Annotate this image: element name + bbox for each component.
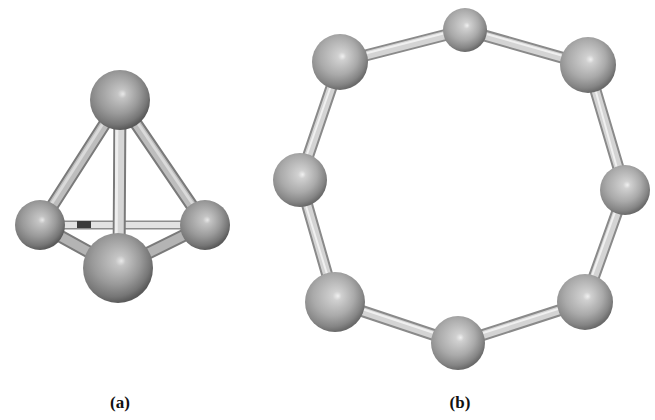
- atom-upper-left: [312, 34, 368, 90]
- atom-top: [443, 8, 487, 52]
- atom-lower-left: [305, 272, 365, 332]
- panel-label-b: (b): [430, 393, 490, 413]
- atom-bottom-front: [83, 233, 153, 303]
- panel-label-a: (a): [90, 393, 150, 413]
- atom-right: [180, 200, 230, 250]
- ring-panel: [273, 8, 650, 370]
- atom-bottom: [431, 316, 485, 370]
- atom-right: [600, 165, 650, 215]
- molecular-structure-figure: [0, 0, 655, 420]
- atom-lower-right: [557, 274, 613, 330]
- tetrahedron-panel: [15, 70, 230, 303]
- atom-left: [273, 153, 327, 207]
- atom-upper-right: [560, 37, 616, 93]
- atom-left: [15, 200, 65, 250]
- atom-top: [90, 70, 150, 130]
- bond-shading-mark: [77, 221, 91, 228]
